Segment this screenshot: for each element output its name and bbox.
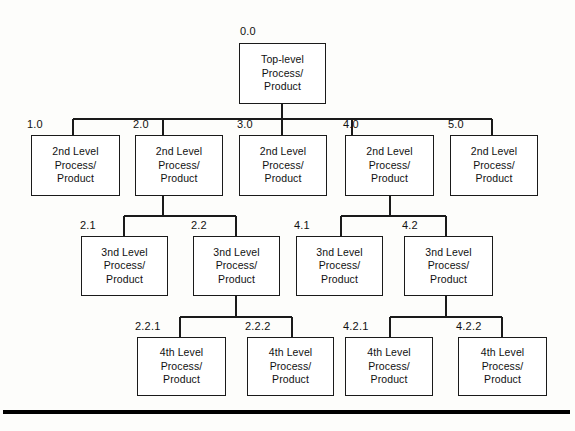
node-text-line-1: 4th Level xyxy=(160,346,204,360)
node-text-line-1: 3nd Level xyxy=(425,246,471,260)
wbs-node-3-0[interactable]: 2nd LevelProcess/Product xyxy=(239,135,327,196)
wbs-number-2-0: 2.0 xyxy=(133,118,149,130)
node-text-line-1: 4th Level xyxy=(481,346,525,360)
node-text-line-3: Product xyxy=(264,80,301,94)
node-text-line-3: Product xyxy=(371,172,408,186)
node-text-line-2: Process/ xyxy=(369,159,411,173)
wbs-node-4-0[interactable]: 2nd LevelProcess/Product xyxy=(345,135,434,196)
bottom-rule xyxy=(3,410,570,414)
node-text-line-1: Top-level xyxy=(261,53,304,67)
wbs-number-2-2-1: 2.2.1 xyxy=(135,320,160,332)
node-text-line-2: Process/ xyxy=(270,360,312,374)
node-text-line-3: Product xyxy=(430,273,467,287)
node-text-line-3: Product xyxy=(476,172,513,186)
node-text-line-2: Process/ xyxy=(262,159,304,173)
wbs-node-4-2-2[interactable]: 4th LevelProcess/Product xyxy=(458,337,547,396)
node-text-line-1: 3nd Level xyxy=(213,246,259,260)
wbs-number-3-0: 3.0 xyxy=(237,118,253,130)
node-text-line-2: Process/ xyxy=(55,159,97,173)
node-text-line-2: Process/ xyxy=(319,259,361,273)
node-text-line-3: Product xyxy=(218,273,255,287)
node-text-line-2: Process/ xyxy=(104,259,146,273)
node-text-line-3: Product xyxy=(163,373,200,387)
node-text-line-2: Process/ xyxy=(216,259,258,273)
node-text-line-1: 4th Level xyxy=(269,346,313,360)
node-text-line-3: Product xyxy=(57,172,94,186)
wbs-node-2-0[interactable]: 2nd LevelProcess/Product xyxy=(135,135,223,196)
wbs-node-2-1[interactable]: 3nd LevelProcess/Product xyxy=(81,236,168,296)
node-text-line-1: 2nd Level xyxy=(156,145,202,159)
node-text-line-2: Process/ xyxy=(158,159,200,173)
node-text-line-1: 4th Level xyxy=(367,346,411,360)
node-text-line-2: Process/ xyxy=(473,159,515,173)
node-text-line-3: Product xyxy=(161,172,198,186)
node-text-line-3: Product xyxy=(371,373,408,387)
wbs-number-4-0: 4.0 xyxy=(343,118,359,130)
wbs-number-0-0: 0.0 xyxy=(240,25,256,37)
node-text-line-3: Product xyxy=(265,172,302,186)
node-text-line-2: Process/ xyxy=(368,360,410,374)
node-text-line-3: Product xyxy=(321,273,358,287)
wbs-node-4-2-1[interactable]: 4th LevelProcess/Product xyxy=(345,337,433,396)
wbs-node-2-2[interactable]: 3nd LevelProcess/Product xyxy=(193,236,280,296)
wbs-diagram: Top-levelProcess/Product2nd LevelProcess… xyxy=(0,0,575,431)
node-text-line-1: 2nd Level xyxy=(52,145,98,159)
node-text-line-2: Process/ xyxy=(161,360,203,374)
wbs-node-2-2-2[interactable]: 4th LevelProcess/Product xyxy=(247,337,334,396)
wbs-number-4-2: 4.2 xyxy=(402,219,418,231)
wbs-number-4-2-2: 4.2.2 xyxy=(456,320,481,332)
wbs-node-1-0[interactable]: 2nd LevelProcess/Product xyxy=(31,135,120,196)
wbs-node-4-2[interactable]: 3nd LevelProcess/Product xyxy=(404,236,493,296)
wbs-node-0-0[interactable]: Top-levelProcess/Product xyxy=(239,43,326,104)
wbs-node-5-0[interactable]: 2nd LevelProcess/Product xyxy=(450,135,538,196)
node-text-line-1: 3nd Level xyxy=(316,246,362,260)
wbs-number-1-0: 1.0 xyxy=(27,118,43,130)
wbs-node-2-2-1[interactable]: 4th LevelProcess/Product xyxy=(137,337,226,396)
wbs-number-2-2: 2.2 xyxy=(191,219,207,231)
node-text-line-1: 2nd Level xyxy=(366,145,412,159)
node-text-line-1: 3nd Level xyxy=(101,246,147,260)
node-text-line-1: 2nd Level xyxy=(471,145,517,159)
wbs-number-5-0: 5.0 xyxy=(448,118,464,130)
node-text-line-2: Process/ xyxy=(428,259,470,273)
wbs-number-4-2-1: 4.2.1 xyxy=(343,320,368,332)
node-text-line-3: Product xyxy=(484,373,521,387)
wbs-number-2-1: 2.1 xyxy=(80,219,96,231)
node-text-line-3: Product xyxy=(272,373,309,387)
node-text-line-2: Process/ xyxy=(262,67,304,81)
node-text-line-1: 2nd Level xyxy=(260,145,306,159)
node-text-line-3: Product xyxy=(106,273,143,287)
node-text-line-2: Process/ xyxy=(482,360,524,374)
wbs-node-4-1[interactable]: 3nd LevelProcess/Product xyxy=(296,236,383,296)
wbs-number-2-2-2: 2.2.2 xyxy=(245,320,270,332)
wbs-number-4-1: 4.1 xyxy=(294,219,310,231)
